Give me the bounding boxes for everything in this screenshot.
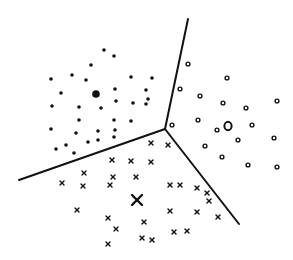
dot-marker bbox=[146, 97, 150, 101]
dot-marker bbox=[150, 76, 154, 80]
circle-marker bbox=[220, 155, 224, 159]
circle-marker bbox=[275, 165, 279, 169]
circle-marker bbox=[221, 101, 225, 105]
circle-marker bbox=[215, 128, 219, 132]
dot-marker bbox=[144, 88, 148, 92]
x-marker bbox=[134, 175, 138, 179]
dot-marker bbox=[72, 151, 76, 155]
x-marker bbox=[185, 229, 189, 233]
circle-marker bbox=[170, 123, 174, 127]
x-marker bbox=[178, 183, 182, 187]
dot-marker bbox=[102, 48, 106, 52]
x-marker bbox=[60, 181, 64, 185]
x-marker bbox=[172, 230, 176, 234]
x-marker bbox=[75, 208, 79, 212]
circle-marker bbox=[178, 87, 182, 91]
x-marker bbox=[108, 183, 112, 187]
x-marker bbox=[81, 184, 85, 188]
circle-marker bbox=[198, 94, 202, 98]
circle-marker bbox=[244, 106, 248, 110]
x-marker bbox=[150, 238, 154, 242]
x-marker bbox=[195, 186, 199, 190]
dot-marker bbox=[70, 73, 74, 77]
x-marker bbox=[168, 209, 172, 213]
x-marker bbox=[142, 220, 146, 224]
circle-centroid bbox=[224, 122, 231, 130]
x-marker bbox=[205, 191, 209, 195]
dot-marker bbox=[129, 75, 133, 79]
circle-marker bbox=[275, 99, 279, 103]
dot-marker bbox=[74, 131, 78, 135]
x-marker bbox=[106, 242, 110, 246]
circle-marker bbox=[196, 118, 200, 122]
dot-marker bbox=[96, 129, 100, 133]
diagram-canvas bbox=[0, 0, 293, 260]
dot-marker bbox=[113, 128, 117, 132]
dot-marker bbox=[129, 119, 133, 123]
dot-marker bbox=[144, 102, 148, 106]
x-marker bbox=[216, 215, 220, 219]
boundary-top bbox=[165, 19, 188, 129]
x-marker bbox=[114, 227, 118, 231]
circle-marker bbox=[225, 76, 229, 80]
voronoi-diagram: Voronoi partition of three clusters bbox=[0, 0, 293, 260]
dot-marker bbox=[49, 127, 53, 131]
dot-centroid bbox=[92, 90, 100, 98]
x-centroid bbox=[132, 195, 142, 205]
x-marker bbox=[149, 141, 153, 145]
dot-marker bbox=[114, 99, 118, 103]
circle-marker bbox=[186, 62, 190, 66]
x-marker bbox=[195, 210, 199, 214]
circle-marker bbox=[203, 144, 207, 148]
boundary-left bbox=[19, 129, 165, 180]
dot-marker bbox=[84, 78, 88, 82]
x-marker bbox=[106, 216, 110, 220]
dot-marker bbox=[64, 143, 68, 147]
x-marker bbox=[168, 183, 172, 187]
dot-marker bbox=[54, 147, 58, 151]
boundary-right bbox=[165, 129, 239, 224]
dot-marker bbox=[112, 54, 116, 58]
dot-marker bbox=[86, 140, 90, 144]
dot-marker bbox=[99, 106, 103, 110]
dot-marker bbox=[89, 63, 93, 67]
dot-marker bbox=[49, 77, 53, 81]
dot-marker bbox=[96, 138, 100, 142]
dot-marker bbox=[77, 105, 81, 109]
x-marker bbox=[129, 159, 133, 163]
x-marker bbox=[149, 160, 153, 164]
circle-marker bbox=[236, 138, 240, 142]
circle-marker bbox=[250, 123, 254, 127]
dot-marker bbox=[59, 91, 63, 95]
dot-marker bbox=[112, 135, 116, 139]
cluster-points bbox=[49, 48, 279, 246]
x-marker bbox=[207, 199, 211, 203]
dot-marker bbox=[112, 118, 116, 122]
dot-marker bbox=[50, 104, 54, 108]
circle-marker bbox=[272, 136, 276, 140]
dot-marker bbox=[131, 101, 135, 105]
x-marker bbox=[82, 171, 86, 175]
dot-marker bbox=[77, 118, 81, 122]
x-marker bbox=[110, 158, 114, 162]
dot-marker bbox=[113, 87, 117, 91]
x-marker bbox=[140, 236, 144, 240]
x-marker bbox=[111, 175, 115, 179]
x-marker bbox=[166, 143, 170, 147]
circle-marker bbox=[246, 163, 250, 167]
